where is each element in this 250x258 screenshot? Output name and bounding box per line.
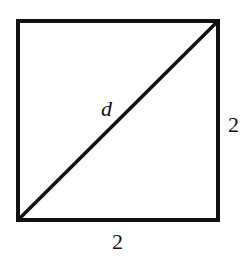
right-side-label: 2 (228, 112, 239, 137)
bottom-side-label: 2 (112, 229, 123, 254)
diagonal-line (19, 22, 217, 219)
diagonal-label: d (101, 96, 113, 121)
square-diagram: d 2 2 (0, 0, 250, 258)
